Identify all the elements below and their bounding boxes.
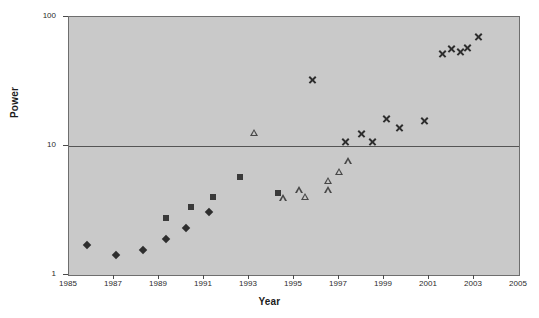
x-tick-label: 2001: [408, 279, 448, 288]
x-tick-label: 1999: [363, 279, 403, 288]
y-axis-title: Power: [9, 87, 20, 118]
data-point-square: [188, 204, 194, 210]
data-point-cross: [420, 116, 429, 125]
y-axis: 110100: [0, 0, 64, 318]
data-point-cross: [368, 137, 377, 146]
x-tick-label: 1987: [93, 279, 133, 288]
x-tick-label: 1997: [318, 279, 358, 288]
x-tick-mark: [203, 275, 204, 279]
data-point-square: [237, 174, 243, 180]
data-point-triangle: [335, 168, 343, 175]
data-point-diamond: [112, 251, 120, 259]
data-point-diamond: [139, 246, 147, 254]
x-tick-mark: [248, 275, 249, 279]
x-tick-label: 2003: [453, 279, 493, 288]
plot-area: [68, 16, 520, 276]
x-tick-mark: [428, 275, 429, 279]
data-point-cross: [395, 123, 404, 132]
data-point-cross: [357, 129, 366, 138]
data-point-diamond: [204, 207, 212, 215]
data-point-cross: [308, 75, 317, 84]
x-tick-label: 1989: [138, 279, 178, 288]
data-point-diamond: [162, 235, 170, 243]
data-point-cross: [438, 49, 447, 58]
data-point-triangle: [279, 194, 287, 201]
x-tick-mark: [113, 275, 114, 279]
x-tick-mark: [158, 275, 159, 279]
data-point-diamond: [83, 240, 91, 248]
gridline-horizontal: [69, 146, 519, 147]
y-tick-mark: [63, 145, 68, 146]
data-point-triangle: [324, 186, 332, 193]
x-axis-title: Year: [0, 296, 539, 307]
y-tick-mark: [63, 274, 68, 275]
data-point-cross: [447, 44, 456, 53]
x-tick-label: 1985: [48, 279, 88, 288]
x-tick-label: 2005: [498, 279, 538, 288]
x-tick-mark: [473, 275, 474, 279]
data-point-cross: [474, 32, 483, 41]
data-point-square: [210, 194, 216, 200]
x-tick-mark: [383, 275, 384, 279]
x-tick-mark: [338, 275, 339, 279]
data-point-cross: [341, 137, 350, 146]
x-tick-label: 1993: [228, 279, 268, 288]
y-tick-label: 100: [43, 12, 56, 20]
data-point-triangle: [301, 193, 309, 200]
data-point-cross: [382, 114, 391, 123]
data-point-triangle: [324, 177, 332, 184]
y-tick-mark: [63, 16, 68, 17]
y-tick-label: 1: [52, 270, 56, 278]
x-tick-label: 1991: [183, 279, 223, 288]
data-point-cross: [463, 43, 472, 52]
data-point-square: [163, 215, 169, 221]
data-point-triangle: [250, 129, 258, 136]
data-point-diamond: [182, 224, 190, 232]
x-tick-mark: [293, 275, 294, 279]
y-tick-label: 10: [47, 141, 56, 149]
x-tick-label: 1995: [273, 279, 313, 288]
data-point-triangle: [344, 157, 352, 164]
chart-figure: 110100 Power Year 1985198719891991199319…: [0, 0, 539, 318]
